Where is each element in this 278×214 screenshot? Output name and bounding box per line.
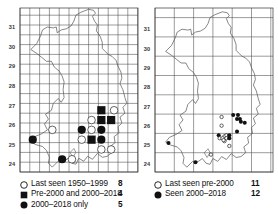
legend-row-last-seen-pre-2000: Last seen pre-2000 11 — [154, 179, 274, 189]
filled-circle-marker — [58, 155, 66, 163]
y-tick-label: 29 — [144, 65, 150, 71]
legend-count: 11 — [251, 179, 260, 189]
filled-square-marker — [97, 106, 105, 114]
filled-circle-marker — [227, 136, 231, 140]
legend-label: Last seen pre-2000 — [165, 179, 234, 189]
open-circle-marker — [220, 115, 223, 118]
filled-circle-marker — [78, 126, 86, 134]
y-tick-label: 25 — [9, 142, 15, 148]
y-tick-label: 27 — [9, 103, 15, 109]
open-circle-marker — [222, 138, 225, 141]
filled-square-marker — [97, 116, 105, 124]
legend-label: 2000–2018 only — [31, 200, 88, 210]
legend-count: 5 — [118, 200, 123, 210]
filled-circle-marker — [235, 129, 239, 133]
legend-label: Seen 2000–2018 — [165, 189, 226, 199]
x-tick-label: 54 — [64, 175, 71, 176]
y-tick-label: 30 — [144, 46, 150, 52]
filled-circle-marker — [167, 141, 171, 145]
x-tick-label: 52 — [25, 175, 31, 176]
x-tick-label: 57 — [256, 175, 262, 176]
filled-circle-marker — [194, 160, 198, 164]
filled-square-marker — [107, 116, 115, 124]
record-markers — [29, 106, 118, 163]
right-distribution-map: 3130292827262524525354555657 — [136, 0, 278, 176]
filled-circle-marker — [29, 136, 37, 144]
filled-circle-icon — [20, 201, 28, 209]
open-circle-marker — [220, 124, 223, 127]
x-tick-label: 57 — [123, 175, 129, 176]
open-circle-marker — [88, 126, 96, 134]
right-map-canvas: 3130292827262524525354555657 — [136, 0, 278, 176]
legend-label: Pre-2000 and 2000–2018 — [31, 189, 122, 199]
open-circle-marker — [107, 146, 115, 154]
x-tick-label: 53 — [179, 175, 185, 176]
x-tick-label: 55 — [218, 175, 224, 176]
open-circle-marker — [49, 126, 57, 134]
filled-circle-marker — [231, 113, 235, 117]
open-circle-icon — [20, 181, 28, 189]
filled-circle-marker — [97, 136, 105, 144]
x-tick-label: 55 — [84, 175, 90, 176]
map-grid — [155, 8, 273, 172]
open-circle-marker — [68, 155, 76, 163]
x-tick-label: 54 — [198, 175, 205, 176]
left-legend: Last seen 1950–1999 8 Pre-2000 and 2000–… — [20, 179, 138, 210]
y-tick-label: 26 — [144, 123, 150, 129]
open-circle-icon — [154, 181, 162, 189]
map-grid — [20, 8, 138, 172]
filled-circle-marker — [243, 121, 247, 125]
open-circle-marker — [78, 136, 86, 144]
legend-count: 12 — [251, 189, 260, 199]
legend-count: 8 — [118, 179, 123, 189]
legend-row-seen-2000-2018: Seen 2000–2018 12 — [154, 189, 274, 199]
filled-circle-marker — [97, 126, 105, 134]
legend-label: Last seen 1950–1999 — [31, 179, 108, 189]
filled-circle-marker — [236, 113, 240, 117]
y-tick-label: 30 — [9, 44, 15, 50]
left-distribution-map: 3130292827262524525354555657 — [0, 0, 140, 176]
y-tick-label: 28 — [144, 84, 150, 90]
open-circle-marker — [110, 106, 118, 114]
y-tick-label: 31 — [9, 24, 15, 30]
x-tick-label: 56 — [237, 175, 243, 176]
y-tick-label: 31 — [144, 26, 150, 32]
legend-row-2000-2018-only: 2000–2018 only 5 — [20, 200, 138, 210]
filled-square-marker — [87, 136, 95, 144]
filled-circle-icon — [154, 191, 162, 199]
legend-row-last-seen-1950-1999: Last seen 1950–1999 8 — [20, 179, 138, 189]
y-tick-label: 28 — [9, 83, 15, 89]
legend-row-pre-2000-and-2000-2018: Pre-2000 and 2000–2018 4 — [20, 189, 138, 199]
open-circle-marker — [98, 146, 106, 154]
filled-circle-marker — [239, 120, 243, 124]
y-tick-label: 24 — [144, 161, 151, 167]
open-circle-marker — [88, 116, 96, 124]
left-map-canvas: 3130292827262524525354555657 — [0, 0, 140, 176]
y-tick-label: 29 — [9, 63, 15, 69]
filled-square-icon — [20, 191, 28, 199]
y-tick-label: 27 — [144, 104, 150, 110]
right-legend: Last seen pre-2000 11 Seen 2000–2018 12 — [154, 179, 274, 200]
open-circle-marker — [209, 153, 212, 156]
x-tick-label: 56 — [103, 175, 109, 176]
x-tick-label: 52 — [160, 175, 166, 176]
legend-count: 4 — [118, 189, 123, 199]
y-tick-label: 24 — [9, 161, 16, 167]
x-tick-label: 53 — [44, 175, 50, 176]
y-tick-label: 25 — [144, 142, 150, 148]
open-circle-marker — [228, 144, 231, 147]
y-tick-label: 26 — [9, 122, 15, 128]
